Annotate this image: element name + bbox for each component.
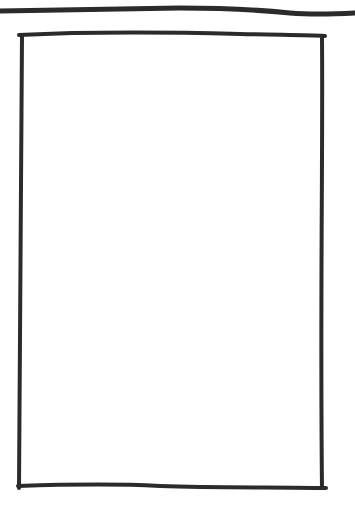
content-frame xyxy=(0,0,355,512)
